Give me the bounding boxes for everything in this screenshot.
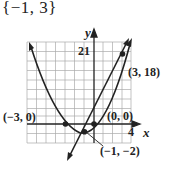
line-arrow-down (67, 152, 73, 161)
graph: y x 21 4 (−3, 0) (0, 0) (−1, −2) (3, 18) (0, 0, 177, 178)
point-0-0 (91, 121, 97, 127)
line-graph (69, 42, 127, 157)
label-3-18: (3, 18) (128, 65, 160, 79)
y-axis-arrow (91, 29, 97, 37)
label-neg1-neg2: (−1, −2) (100, 144, 140, 158)
label-0-0: (0, 0) (107, 109, 133, 123)
point-neg3-0 (63, 121, 69, 127)
x-tick-4: 4 (128, 125, 134, 139)
label-neg3-0: (−3, 0) (3, 110, 36, 124)
y-axis-label: y (83, 25, 91, 40)
y-tick-21: 21 (78, 44, 90, 58)
point-3-18 (120, 51, 126, 57)
x-axis-label: x (142, 125, 150, 140)
